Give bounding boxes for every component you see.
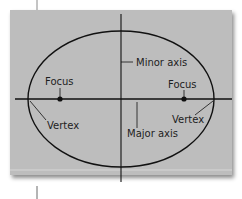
vertex-right-label: Vertex	[172, 114, 204, 125]
focus-right-label: Focus	[168, 79, 197, 90]
focus-left-label: Focus	[45, 76, 74, 87]
focus-left-point	[57, 96, 62, 101]
vertex-right-leader	[195, 101, 213, 115]
vertex-left-label: Vertex	[47, 120, 79, 131]
focus-right-point	[181, 96, 186, 101]
ellipse-diagram: Minor axis Focus Focus Vertex Vertex Maj…	[0, 0, 242, 199]
vertex-left-leader	[30, 101, 46, 120]
major-axis-label: Major axis	[127, 128, 178, 139]
minor-axis-label: Minor axis	[136, 57, 187, 68]
